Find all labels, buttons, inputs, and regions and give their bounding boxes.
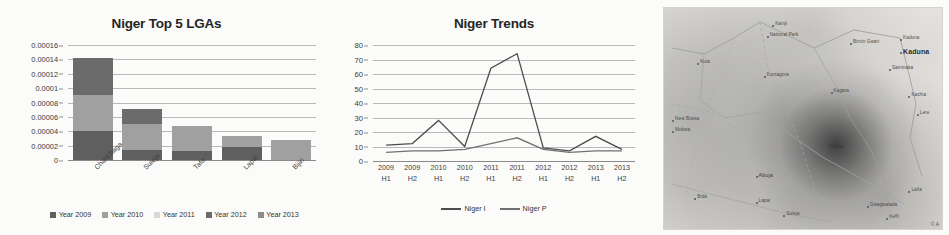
line-chart-y-tick: 40 bbox=[355, 99, 363, 108]
line-chart-plot-area bbox=[373, 45, 635, 161]
line-chart-x-tick-half: H2 bbox=[556, 174, 582, 185]
bar-chart-y-tick: 0.00002 bbox=[31, 141, 58, 150]
bar-chart-bar[interactable] bbox=[271, 140, 311, 160]
bar-chart-x-axis: ChanchagaSulejaTafaLapaiBijiri bbox=[68, 161, 316, 199]
legend-swatch-icon bbox=[102, 212, 108, 218]
map-place-dot-icon bbox=[756, 176, 758, 178]
bar-chart-bar-segment bbox=[73, 58, 113, 96]
line-chart-x-tick: 2010H2 bbox=[452, 163, 478, 193]
line-chart-series-path[interactable] bbox=[386, 138, 622, 153]
line-chart-legend-label: Niger P bbox=[523, 204, 547, 213]
line-chart-y-tick: 30 bbox=[355, 113, 363, 122]
legend-swatch-icon bbox=[50, 212, 56, 218]
map-place-label: Suleja bbox=[786, 211, 799, 216]
map-place-dot-icon bbox=[900, 39, 902, 41]
bar-chart-panel: Niger Top 5 LGAs 0.000160.000140.000120.… bbox=[0, 0, 333, 235]
bar-chart-bar-group[interactable] bbox=[118, 45, 168, 160]
map-image[interactable]: KadunaKadunaSaminakaBirnin GwariKachiaLe… bbox=[663, 7, 943, 230]
bar-chart-x-tick: Bijiri bbox=[266, 161, 316, 199]
line-chart-series-path[interactable] bbox=[386, 54, 622, 151]
bar-chart-x-tick: Suleja bbox=[118, 161, 168, 199]
map-place-label: Keffi bbox=[889, 214, 899, 219]
bar-chart-legend-item[interactable]: Year 2009 bbox=[50, 210, 91, 219]
map-place-label: Kuta bbox=[700, 59, 710, 64]
map-place-label: Kontagora bbox=[767, 72, 789, 77]
line-chart-x-tick: 2011H1 bbox=[478, 163, 504, 193]
map-place-dot-icon bbox=[917, 114, 919, 116]
bar-chart-x-tick: Tafa bbox=[167, 161, 217, 199]
legend-line-icon bbox=[500, 208, 520, 210]
line-chart-x-tick: 2009H1 bbox=[373, 163, 399, 193]
map-place-label: Mokwa bbox=[675, 127, 690, 132]
bar-chart-bar[interactable] bbox=[73, 58, 113, 160]
bar-chart-bar-group[interactable] bbox=[217, 45, 267, 160]
legend-swatch-icon bbox=[154, 212, 160, 218]
map-place-label: Lere bbox=[920, 110, 930, 115]
line-chart-y-tick: 60 bbox=[355, 70, 363, 79]
bar-chart-y-tick: 0.00004 bbox=[31, 127, 58, 136]
line-chart-x-tick-half: H1 bbox=[373, 174, 399, 185]
bar-chart-bar-group[interactable] bbox=[68, 45, 118, 160]
map-place-label: Lapai bbox=[759, 198, 771, 203]
bar-chart-bar-segment bbox=[122, 109, 162, 124]
bar-chart-bar-group[interactable] bbox=[167, 45, 217, 160]
map-place-dot-icon bbox=[697, 63, 699, 65]
line-chart-x-tick-year: 2012 bbox=[530, 163, 556, 174]
line-chart-x-tick-half: H2 bbox=[504, 174, 530, 185]
bar-chart-y-tick: 0 bbox=[54, 156, 58, 165]
bar-chart-bar-segment bbox=[122, 124, 162, 150]
line-chart-y-tick: 10 bbox=[355, 142, 363, 151]
bar-chart-plot-area bbox=[68, 45, 316, 160]
map-place-label: Kainji bbox=[775, 21, 787, 26]
line-chart-x-tick-year: 2012 bbox=[556, 163, 582, 174]
map-place-dot-icon bbox=[825, 147, 827, 149]
line-chart-y-tick: 70 bbox=[355, 55, 363, 64]
bar-chart-legend-label: Year 2009 bbox=[59, 210, 92, 219]
map-place-label: Bida bbox=[697, 194, 707, 199]
bar-chart-legend-item[interactable]: Year 2013 bbox=[258, 210, 299, 219]
line-chart-y-tick: 50 bbox=[355, 84, 363, 93]
legend-swatch-icon bbox=[206, 212, 212, 218]
line-chart-y-tick: 80 bbox=[355, 41, 363, 50]
line-chart-legend-item[interactable]: Niger P bbox=[500, 204, 547, 213]
line-chart-legend: Niger INiger P bbox=[333, 204, 655, 213]
bar-chart-bar-segment bbox=[172, 151, 212, 160]
map-attribution: © A bbox=[931, 221, 939, 227]
line-chart-title: Niger Trends bbox=[333, 16, 655, 31]
map-place-dot-icon bbox=[886, 218, 888, 220]
map-place-label: Kaduna bbox=[903, 48, 929, 55]
map-place-label: Kaduna bbox=[903, 35, 919, 40]
bar-chart-bar-segment bbox=[271, 140, 311, 160]
map-panel: KadunaKadunaSaminakaBirnin GwariKachiaLe… bbox=[655, 0, 949, 235]
bar-chart-x-tick: Lapai bbox=[217, 161, 267, 199]
bar-chart-bar-group[interactable] bbox=[266, 45, 316, 160]
line-chart-series bbox=[373, 45, 635, 161]
map-place-dot-icon bbox=[756, 202, 758, 204]
bar-chart-title: Niger Top 5 LGAs bbox=[0, 16, 333, 31]
bar-chart-legend-item[interactable]: Year 2011 bbox=[154, 210, 194, 219]
bar-chart-y-tick: 0.00006 bbox=[31, 112, 58, 121]
line-chart-x-axis: 2009H12009H22010H12010H22011H12011H22012… bbox=[373, 163, 635, 193]
line-chart-y-tick: 20 bbox=[355, 128, 363, 137]
bar-chart-y-tick: 0.00008 bbox=[31, 98, 58, 107]
line-chart-x-tick: 2012H1 bbox=[530, 163, 556, 193]
map-place-dot-icon bbox=[764, 76, 766, 78]
line-chart-x-tick: 2012H2 bbox=[556, 163, 582, 193]
map-place-label: Gwagwalada bbox=[870, 202, 898, 207]
map-place-label: Kagara bbox=[834, 88, 849, 93]
line-chart-x-tick-half: H1 bbox=[478, 174, 504, 185]
bar-chart-legend-item[interactable]: Year 2010 bbox=[102, 210, 143, 219]
bar-chart-legend-item[interactable]: Year 2012 bbox=[206, 210, 247, 219]
bar-chart-bars bbox=[68, 45, 316, 160]
line-chart-panel: Niger Trends 80706050403020100 2009H1200… bbox=[333, 0, 655, 235]
legend-line-icon bbox=[441, 208, 461, 210]
line-chart-x-tick-year: 2010 bbox=[452, 163, 478, 174]
bar-chart-bar[interactable] bbox=[172, 126, 212, 161]
map-place-label: Saminaka bbox=[892, 65, 913, 70]
line-chart-x-tick-year: 2009 bbox=[373, 163, 399, 174]
bar-chart-legend: Year 2009Year 2010Year 2011Year 2012Year… bbox=[24, 210, 325, 219]
line-chart-legend-item[interactable]: Niger I bbox=[441, 204, 485, 213]
line-chart-x-tick-year: 2011 bbox=[478, 163, 504, 174]
line-chart-x-tick: 2009H2 bbox=[399, 163, 425, 193]
line-chart-x-tick: 2011H2 bbox=[504, 163, 530, 193]
